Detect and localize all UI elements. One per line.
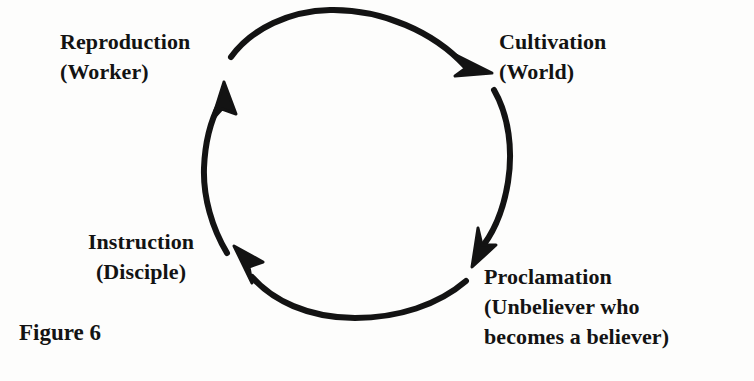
node-label-cultivation: Cultivation (World) [499, 27, 606, 87]
arc-reproduction-to-cultivation [231, 10, 465, 66]
figure-canvas: Reproduction (Worker) Cultivation (World… [0, 0, 754, 381]
node-label-instruction: Instruction (Disciple) [70, 227, 212, 287]
figure-caption: Figure 6 [19, 318, 101, 348]
node-label-reproduction: Reproduction (Worker) [60, 27, 190, 87]
node-subtitle-reproduction: (Worker) [60, 57, 190, 87]
node-title-cultivation: Cultivation [499, 27, 606, 57]
arrowhead-instruction [234, 246, 263, 283]
node-subtitle-proclamation: (Unbeliever who [484, 292, 669, 322]
arrowhead-reproduction [212, 82, 236, 120]
node-title-instruction: Instruction [70, 227, 212, 257]
arc-cultivation-to-proclamation [478, 90, 510, 252]
node-subtitle-instruction: (Disciple) [70, 257, 212, 287]
node-title-proclamation: Proclamation [484, 262, 669, 292]
arc-proclamation-to-instruction [252, 277, 466, 318]
node-subtitle-cultivation: (World) [499, 57, 606, 87]
node-subtitle2-proclamation: becomes a believer) [484, 322, 669, 352]
node-label-proclamation: Proclamation (Unbeliever who becomes a b… [484, 262, 669, 352]
node-title-reproduction: Reproduction [60, 27, 190, 57]
